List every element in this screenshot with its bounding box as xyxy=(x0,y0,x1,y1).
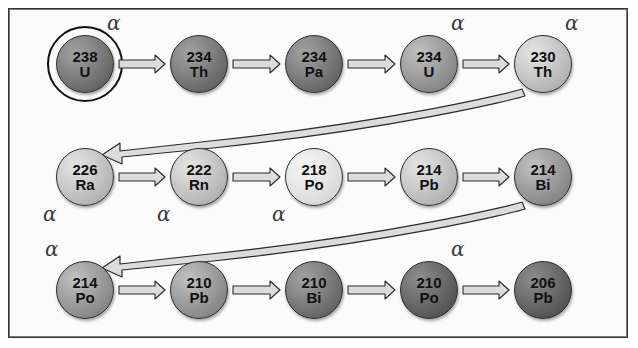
nuclide-mass-number: 214 xyxy=(530,162,555,177)
decay-step-arrow xyxy=(347,167,396,187)
decay-step-arrow xyxy=(118,54,166,74)
nuclide-node[interactable]: 234Th xyxy=(170,35,228,93)
alpha-decay-label: α xyxy=(157,204,171,224)
nuclide-mass-number: 234 xyxy=(186,49,211,64)
alpha-decay-label: α xyxy=(451,239,465,259)
alpha-decay-label: α xyxy=(451,13,465,33)
decay-step-arrow xyxy=(118,167,166,187)
nuclide-mass-number: 222 xyxy=(186,162,211,177)
nuclide-mass-number: 234 xyxy=(301,49,326,64)
nuclide-mass-number: 214 xyxy=(416,162,441,177)
decay-step-arrow xyxy=(462,280,510,300)
nuclide-mass-number: 230 xyxy=(530,49,555,64)
nuclide-mass-number: 218 xyxy=(301,162,326,177)
decay-step-arrow xyxy=(232,280,281,300)
nuclide-element-symbol: Po xyxy=(75,290,94,305)
nuclide-element-symbol: Po xyxy=(419,290,438,305)
decay-step-arrow xyxy=(118,280,166,300)
nuclide-mass-number: 206 xyxy=(530,275,555,290)
nuclide-element-symbol: U xyxy=(80,64,91,79)
diagram-panel: 238Uα234Th234Pa234Uα230Thα226Raα222Rnα21… xyxy=(8,8,628,338)
decay-step-arrow xyxy=(462,54,510,74)
nuclide-node[interactable]: 210Bi xyxy=(285,261,343,319)
alpha-decay-label: α xyxy=(43,204,57,224)
nuclide-element-symbol: Po xyxy=(304,177,323,192)
nuclide-node[interactable]: 234Pa xyxy=(285,35,343,93)
nuclide-node[interactable]: 214Pb xyxy=(400,148,458,206)
nuclide-element-symbol: Pb xyxy=(533,290,552,305)
alpha-decay-label: α xyxy=(107,13,121,33)
nuclide-element-symbol: Rn xyxy=(189,177,209,192)
decay-step-arrow xyxy=(347,54,396,74)
nuclide-mass-number: 210 xyxy=(301,275,326,290)
nuclide-node[interactable]: 222Rn xyxy=(170,148,228,206)
nuclide-element-symbol: Bi xyxy=(536,177,551,192)
nuclide-node[interactable]: 230Th xyxy=(514,35,572,93)
alpha-decay-label: α xyxy=(565,13,579,33)
nuclide-element-symbol: Pb xyxy=(419,177,438,192)
nuclide-node[interactable]: 214Bi xyxy=(514,148,572,206)
alpha-decay-label: α xyxy=(45,239,59,259)
decay-chain-diagram: 238Uα234Th234Pa234Uα230Thα226Raα222Rnα21… xyxy=(0,0,638,348)
nuclide-node[interactable]: 206Pb xyxy=(514,261,572,319)
nuclide-node[interactable]: 214Po xyxy=(56,261,114,319)
nuclide-mass-number: 214 xyxy=(72,275,97,290)
decay-step-arrow xyxy=(347,280,396,300)
nuclide-node[interactable]: 238U xyxy=(56,35,114,93)
decay-step-arrow xyxy=(232,54,281,74)
nuclide-element-symbol: Pb xyxy=(189,290,208,305)
nuclide-element-symbol: Bi xyxy=(307,290,322,305)
nuclide-element-symbol: U xyxy=(424,64,435,79)
nuclide-node[interactable]: 226Ra xyxy=(56,148,114,206)
nuclide-mass-number: 210 xyxy=(186,275,211,290)
nuclide-node[interactable]: 210Pb xyxy=(170,261,228,319)
nuclide-element-symbol: Pa xyxy=(305,64,323,79)
nuclide-element-symbol: Th xyxy=(534,64,552,79)
nuclide-mass-number: 238 xyxy=(72,49,97,64)
nuclide-element-symbol: Ra xyxy=(75,177,94,192)
nuclide-mass-number: 234 xyxy=(416,49,441,64)
alpha-decay-label: α xyxy=(272,204,286,224)
nuclide-node[interactable]: 234U xyxy=(400,35,458,93)
decay-step-arrow xyxy=(462,167,510,187)
nuclide-mass-number: 226 xyxy=(72,162,97,177)
nuclide-node[interactable]: 218Po xyxy=(285,148,343,206)
decay-step-arrow xyxy=(232,167,281,187)
nuclide-element-symbol: Th xyxy=(190,64,208,79)
nuclide-node[interactable]: 210Po xyxy=(400,261,458,319)
nuclide-mass-number: 210 xyxy=(416,275,441,290)
